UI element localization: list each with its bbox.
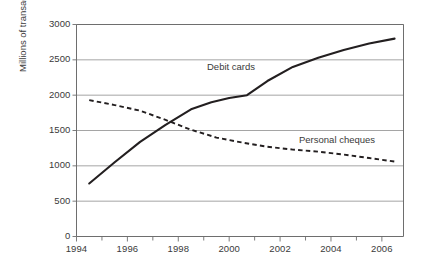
series-label-debit-cards: Debit cards bbox=[207, 61, 255, 72]
x-tick-label: 1998 bbox=[156, 243, 200, 254]
x-tick-label: 2002 bbox=[258, 243, 302, 254]
y-tick-label: 1000 bbox=[27, 159, 71, 170]
x-tick-label: 2006 bbox=[360, 243, 404, 254]
x-tick-label: 2004 bbox=[309, 243, 353, 254]
y-axis-tick-marks bbox=[73, 25, 77, 237]
y-tick-label: 2500 bbox=[27, 53, 71, 64]
y-tick-label: 500 bbox=[27, 195, 71, 206]
y-tick-label: 3000 bbox=[27, 18, 71, 29]
x-tick-label: 1994 bbox=[55, 243, 99, 254]
y-tick-label: 1500 bbox=[27, 124, 71, 135]
series-label-personal-cheques: Personal cheques bbox=[299, 134, 375, 145]
x-tick-label: 1996 bbox=[105, 243, 149, 254]
x-tick-label: 2000 bbox=[207, 243, 251, 254]
line-chart: Millions of transactions 050010001500200… bbox=[0, 0, 428, 272]
gridlines bbox=[77, 25, 404, 202]
x-axis-tick-marks bbox=[77, 237, 382, 242]
y-tick-label: 0 bbox=[27, 230, 71, 241]
y-tick-label: 2000 bbox=[27, 89, 71, 100]
